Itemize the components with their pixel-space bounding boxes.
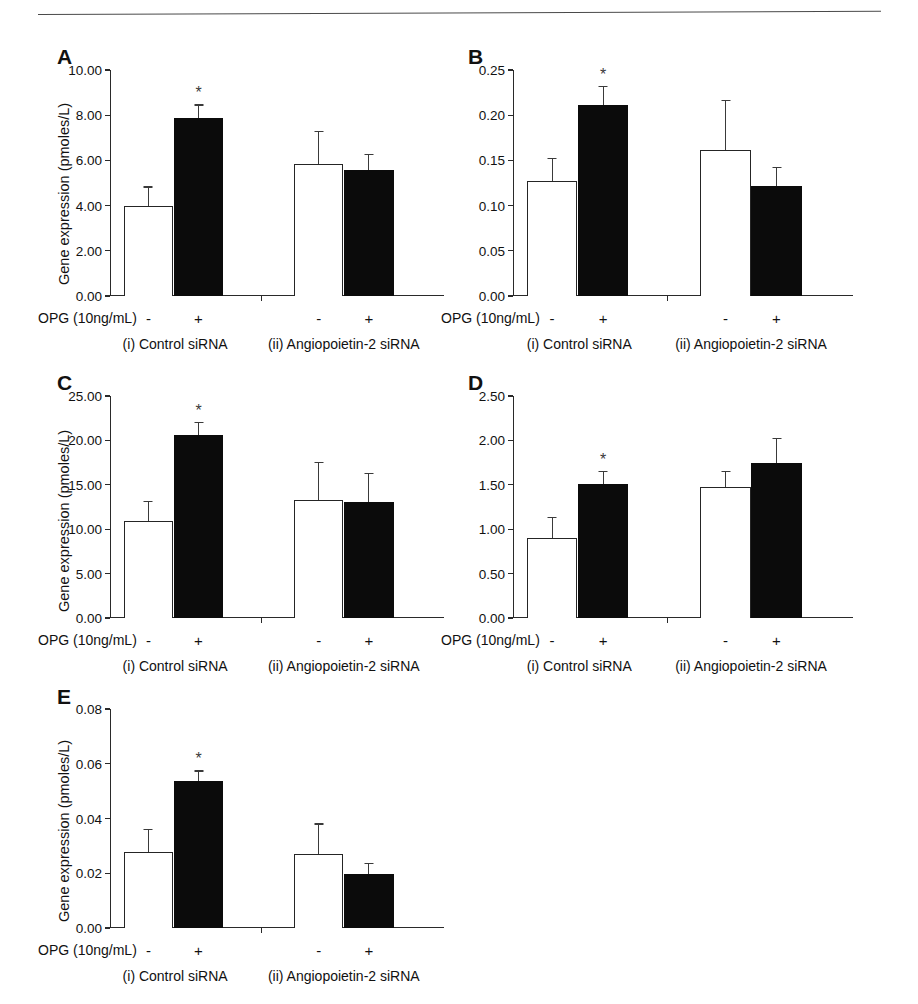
y-tick-label-c-1: 5.00 (76, 566, 102, 581)
y-tick-label-c-3: 15.00 (68, 477, 102, 492)
y-tick-d-2 (508, 529, 513, 530)
error-cap-c-1 (144, 501, 153, 502)
group-label-e-2: (ii) Angiopoietin-2 siRNA (268, 968, 420, 984)
group-label-c-2: (ii) Angiopoietin-2 siRNA (268, 658, 420, 674)
error-bar-d-4 (776, 438, 777, 463)
bar-b-2 (578, 105, 628, 296)
y-tick-label-a-5: 10.00 (68, 63, 102, 78)
panel-letter-d: D (468, 372, 483, 393)
x-axis-line-e (110, 927, 444, 928)
group-label-d-2: (ii) Angiopoietin-2 siRNA (675, 658, 827, 674)
y-tick-d-3 (508, 484, 513, 485)
y-tick-c-5 (105, 395, 110, 396)
error-cap-b-3 (721, 100, 730, 101)
treatment-sign-d-2: + (599, 632, 608, 649)
y-tick-a-3 (105, 160, 110, 161)
y-tick-label-e-1: 0.02 (76, 866, 102, 881)
bar-d-3 (700, 487, 750, 618)
y-tick-label-b-3: 0.15 (479, 153, 505, 168)
y-tick-e-2 (105, 818, 110, 819)
error-cap-a-2 (194, 104, 203, 105)
significance-marker-c-2: * (195, 403, 201, 419)
treatment-sign-c-2: + (194, 632, 203, 649)
treatment-sign-d-3: - (723, 632, 728, 649)
bar-c-3 (294, 500, 343, 618)
x-tick-mid-e (261, 928, 262, 933)
error-cap-d-4 (772, 438, 781, 439)
error-bar-d-1 (552, 517, 553, 538)
x-axis-line-d (513, 617, 853, 618)
bar-d-1 (527, 538, 577, 618)
error-cap-b-2 (599, 86, 608, 87)
panel-b: B0.000.050.100.150.200.25*OPG (10ng/mL)-… (0, 0, 918, 1004)
error-cap-c-2 (194, 422, 203, 423)
error-cap-e-1 (144, 829, 153, 830)
treatment-sign-e-2: + (194, 942, 203, 959)
y-tick-d-1 (508, 573, 513, 574)
error-cap-e-3 (314, 823, 323, 824)
error-bar-d-2 (603, 471, 604, 484)
error-bar-d-3 (725, 471, 726, 488)
y-tick-a-4 (105, 115, 110, 116)
treatment-sign-b-1: - (550, 310, 555, 327)
bar-a-2 (174, 118, 223, 296)
bar-d-4 (751, 463, 801, 618)
page-top-rule (38, 11, 881, 15)
panel-e: EGene expression (pmoles/L)0.000.020.040… (0, 0, 918, 1004)
y-tick-label-e-3: 0.06 (76, 756, 102, 771)
error-cap-a-1 (144, 186, 153, 187)
y-axis-line-a (110, 70, 111, 296)
error-bar-c-3 (318, 462, 319, 500)
bar-c-1 (124, 521, 173, 618)
error-bar-e-4 (368, 863, 369, 874)
error-bar-e-1 (148, 829, 149, 852)
bar-a-1 (124, 206, 173, 296)
treatment-sign-a-1: - (146, 310, 151, 327)
y-tick-label-e-0: 0.00 (76, 921, 102, 936)
group-label-b-1: (i) Control siRNA (527, 336, 632, 352)
y-tick-label-c-4: 20.00 (68, 433, 102, 448)
error-bar-a-4 (368, 154, 369, 170)
treatment-sign-c-3: - (316, 632, 321, 649)
y-axis-line-e (110, 709, 111, 928)
treatment-sign-b-4: + (772, 310, 781, 327)
y-tick-label-d-4: 2.00 (479, 433, 505, 448)
group-label-e-1: (i) Control siRNA (123, 968, 228, 984)
y-tick-a-0 (105, 295, 110, 296)
y-tick-label-d-5: 2.50 (479, 389, 505, 404)
plot-area-c: 0.005.0010.0015.0020.0025.00* (110, 396, 444, 618)
y-axis-title-c: Gene expression (pmoles/L) (56, 430, 72, 612)
y-tick-e-1 (105, 873, 110, 874)
plot-area-e: 0.000.020.040.060.08* (110, 709, 444, 928)
error-bar-e-3 (318, 823, 319, 853)
bar-e-1 (124, 852, 173, 928)
significance-marker-d-2: * (600, 452, 606, 468)
group-label-b-2: (ii) Angiopoietin-2 siRNA (675, 336, 827, 352)
y-tick-label-b-4: 0.20 (479, 108, 505, 123)
plot-area-a: 0.002.004.006.008.0010.00* (110, 70, 444, 296)
y-tick-c-3 (105, 484, 110, 485)
y-tick-e-3 (105, 763, 110, 764)
y-axis-line-d (513, 396, 514, 618)
error-cap-b-4 (772, 167, 781, 168)
significance-marker-e-2: * (195, 751, 201, 767)
bar-a-4 (344, 170, 393, 296)
treatment-label-a: OPG (10ng/mL) (38, 310, 137, 326)
y-tick-label-c-0: 0.00 (76, 611, 102, 626)
y-tick-label-d-1: 0.50 (479, 566, 505, 581)
treatment-sign-e-1: - (146, 942, 151, 959)
treatment-sign-e-4: + (364, 942, 373, 959)
treatment-sign-d-4: + (772, 632, 781, 649)
y-tick-label-a-0: 0.00 (76, 289, 102, 304)
error-bar-c-2 (198, 422, 199, 435)
y-tick-label-b-5: 0.25 (479, 63, 505, 78)
treatment-sign-c-4: + (364, 632, 373, 649)
y-tick-label-e-4: 0.08 (76, 702, 102, 717)
y-tick-label-b-0: 0.00 (479, 289, 505, 304)
treatment-sign-b-3: - (723, 310, 728, 327)
y-tick-a-2 (105, 205, 110, 206)
y-axis-line-c (110, 396, 111, 618)
error-bar-a-1 (148, 186, 149, 205)
significance-marker-a-2: * (195, 85, 201, 101)
error-bar-c-4 (368, 473, 369, 501)
